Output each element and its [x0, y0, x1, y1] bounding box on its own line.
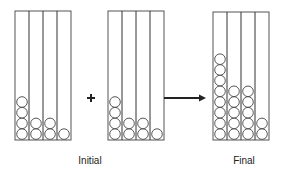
ball: [124, 129, 135, 140]
ball: [110, 118, 121, 129]
ball: [215, 75, 226, 86]
ball: [229, 97, 240, 108]
diagram-canvas: Initial Final: [0, 0, 283, 179]
ball: [17, 129, 28, 140]
ball: [243, 107, 254, 118]
ball: [229, 86, 240, 97]
ball: [229, 118, 240, 129]
ball: [17, 118, 28, 129]
ball: [215, 54, 226, 65]
ball: [138, 129, 149, 140]
ball: [243, 129, 254, 140]
ball: [229, 107, 240, 118]
ball: [110, 107, 121, 118]
ball: [257, 129, 268, 140]
ball: [45, 118, 56, 129]
ball: [110, 97, 121, 108]
ball: [215, 118, 226, 129]
ball: [215, 107, 226, 118]
container-initial-b: [108, 11, 164, 140]
ball: [17, 97, 28, 108]
ball: [243, 86, 254, 97]
ball: [31, 118, 42, 129]
ball: [243, 97, 254, 108]
ball: [257, 118, 268, 129]
ball: [45, 129, 56, 140]
ball: [215, 97, 226, 108]
ball: [215, 129, 226, 140]
ball: [215, 65, 226, 76]
ball: [110, 129, 121, 140]
plus-icon: [87, 94, 95, 102]
ball: [229, 129, 240, 140]
label-initial: Initial: [78, 155, 101, 166]
ball: [59, 129, 70, 140]
arrow-right-icon: [164, 95, 206, 102]
ball: [124, 118, 135, 129]
container-final: [213, 12, 269, 140]
ball: [152, 129, 163, 140]
ball: [138, 118, 149, 129]
ball: [17, 107, 28, 118]
container-initial-a: [15, 11, 71, 140]
ball: [215, 86, 226, 97]
ball: [31, 129, 42, 140]
ball: [243, 118, 254, 129]
label-final: Final: [233, 155, 255, 166]
